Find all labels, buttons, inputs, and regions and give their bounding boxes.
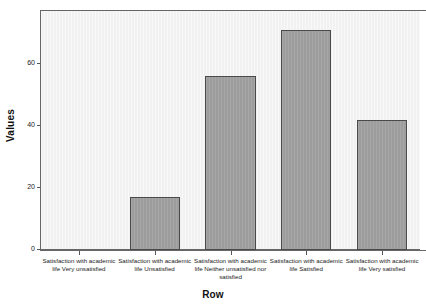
x-axis-tick-mark [231,251,232,255]
y-axis: 0204060 [0,0,41,306]
x-axis-title: Row [0,289,426,300]
bars-container [41,11,420,250]
x-axis-category-label: Satisfaction with academic life Neither … [193,257,269,281]
bar [130,197,180,250]
bar-texture [282,31,330,249]
y-axis-tick-label: 40 [27,121,35,128]
x-axis-category-label: Satisfaction with academic life Very sat… [344,257,420,273]
x-axis-category-label: Satisfaction with academic life Very uns… [41,257,117,273]
x-axis-tick-mark [155,251,156,255]
bar-texture [358,121,406,249]
bar [205,76,255,250]
x-axis-tick-mark [79,251,80,255]
bar [281,30,331,250]
bar [357,120,407,250]
y-axis-tick-label: 20 [27,183,35,190]
x-axis-tick-mark [306,251,307,255]
x-axis-category-label: Satisfaction with academic life Unsatisf… [117,257,193,273]
x-axis-tick-mark [382,251,383,255]
y-axis-tick-label: 60 [27,59,35,66]
bar-chart: Values 0204060 Satisfaction with academi… [0,0,426,306]
bar-texture [206,77,254,249]
y-axis-tick-label: 0 [31,245,35,252]
bar-texture [131,198,179,249]
x-axis-category-label: Satisfaction with academic life Satisfie… [268,257,344,273]
